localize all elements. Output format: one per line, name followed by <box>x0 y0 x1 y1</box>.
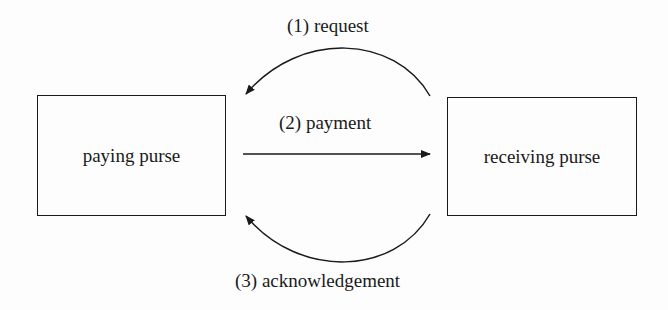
request-arrow <box>246 48 430 96</box>
acknowledgement-arrow <box>246 214 430 262</box>
receiving-purse-node: receiving purse <box>447 97 637 216</box>
payment-label: (2) payment <box>279 112 371 134</box>
receiving-purse-label: receiving purse <box>484 146 601 168</box>
request-label: (1) request <box>287 15 369 37</box>
paying-purse-node: paying purse <box>37 95 226 216</box>
paying-purse-label: paying purse <box>83 145 181 167</box>
diagram-canvas: paying purse receiving purse (1) request… <box>0 0 668 310</box>
acknowledgement-label: (3) acknowledgement <box>235 270 400 292</box>
